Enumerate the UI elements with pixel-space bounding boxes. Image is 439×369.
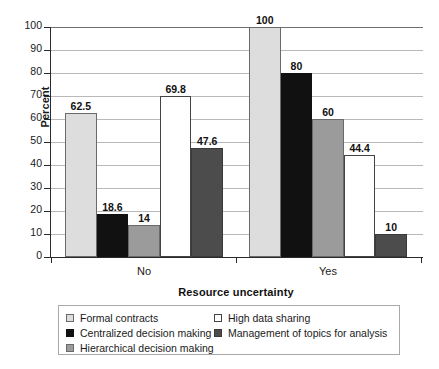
y-tick-mark	[44, 211, 51, 212]
y-tick-mark	[44, 27, 51, 28]
x-category-label: Yes	[319, 265, 337, 277]
bar-value-label: 100	[256, 14, 274, 26]
bar-value-label: 62.5	[71, 100, 91, 112]
x-tick-mark	[236, 257, 237, 263]
bar-value-label: 14	[138, 212, 150, 224]
y-tick-mark	[44, 234, 51, 235]
legend-item-label: Formal contracts	[80, 312, 158, 324]
bar: 62.5	[65, 113, 97, 257]
y-tick-label: 30	[12, 180, 42, 192]
bar-value-label: 69.8	[165, 83, 185, 95]
bar-value-label: 18.6	[102, 201, 122, 213]
y-tick-label: 20	[12, 203, 42, 215]
y-tick-label: 0	[12, 249, 42, 261]
y-tick-mark	[44, 188, 51, 189]
x-tick-mark	[51, 257, 52, 263]
legend-item-label: Hierarchical decision making	[80, 342, 214, 354]
bar: 100	[249, 27, 281, 257]
gridline	[51, 119, 423, 120]
y-tick-mark	[44, 96, 51, 97]
bar-chart-figure: Percent 0102030405060708090100 62.518.61…	[0, 0, 439, 369]
y-tick-mark	[44, 50, 51, 51]
legend-swatch-icon	[66, 344, 74, 352]
bar: 80	[281, 73, 313, 257]
legend-item-label: High data sharing	[228, 312, 310, 324]
y-tick-mark	[44, 257, 51, 258]
bar: 14	[128, 225, 160, 257]
legend-swatch-icon	[214, 329, 222, 337]
y-tick-label: 80	[12, 65, 42, 77]
legend-column-1: Formal contractsCentralized decision mak…	[66, 311, 214, 356]
legend-item-label: Centralized decision making	[80, 327, 211, 339]
plot-area: 0102030405060708090100 62.518.61469.847.…	[50, 27, 423, 258]
legend: Formal contractsCentralized decision mak…	[58, 305, 400, 355]
y-tick-label: 50	[12, 134, 42, 146]
bar: 69.8	[160, 96, 192, 257]
y-tick-label: 100	[12, 19, 42, 31]
bar-value-label: 60	[322, 106, 334, 118]
y-tick-mark	[44, 142, 51, 143]
legend-swatch-icon	[214, 314, 222, 322]
y-tick-label: 90	[12, 42, 42, 54]
y-tick-mark	[44, 119, 51, 120]
y-tick-label: 40	[12, 157, 42, 169]
bar: 10	[375, 234, 407, 257]
x-axis-title: Resource uncertainty	[50, 286, 422, 298]
legend-item-label: Management of topics for analysis	[228, 327, 387, 339]
gridline	[51, 27, 423, 28]
legend-swatch-icon	[66, 314, 74, 322]
x-tick-mark	[421, 257, 422, 263]
gridline	[51, 50, 423, 51]
legend-item[interactable]: Formal contracts	[66, 311, 214, 325]
x-category-label: No	[137, 265, 151, 277]
bar-value-label: 44.4	[349, 142, 369, 154]
y-tick-label: 10	[12, 226, 42, 238]
gridline	[51, 73, 423, 74]
legend-item[interactable]: High data sharing	[214, 311, 387, 325]
bar-value-label: 47.6	[197, 135, 217, 147]
bar-value-label: 80	[291, 60, 303, 72]
legend-item[interactable]: Centralized decision making	[66, 326, 214, 340]
legend-column-2: High data sharingManagement of topics fo…	[214, 311, 387, 341]
y-tick-label: 60	[12, 111, 42, 123]
y-tick-label: 70	[12, 88, 42, 100]
bar: 47.6	[191, 148, 223, 257]
gridline	[51, 96, 423, 97]
bar-value-label: 10	[385, 221, 397, 233]
bar: 44.4	[344, 155, 376, 257]
bar: 60	[312, 119, 344, 257]
y-tick-mark	[44, 165, 51, 166]
legend-swatch-icon	[66, 329, 74, 337]
y-tick-mark	[44, 73, 51, 74]
bar: 18.6	[97, 214, 129, 257]
legend-item[interactable]: Hierarchical decision making	[66, 341, 214, 355]
legend-item[interactable]: Management of topics for analysis	[214, 326, 387, 340]
